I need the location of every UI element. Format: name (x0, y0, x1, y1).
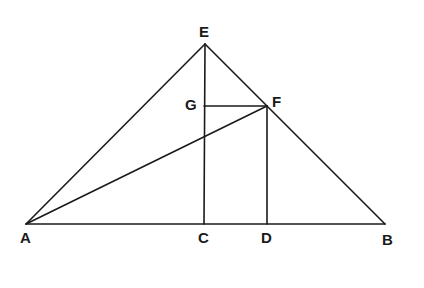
segment-ae (26, 44, 205, 224)
segment-ec (204, 44, 205, 224)
geometry-diagram: E G F A C D B (0, 0, 424, 288)
point-label-d: D (261, 229, 272, 246)
point-label-e: E (199, 23, 209, 40)
point-label-g: G (185, 96, 197, 113)
point-label-c: C (198, 229, 209, 246)
point-label-f: F (272, 93, 281, 110)
point-label-a: A (20, 229, 31, 246)
segment-eb (205, 44, 385, 224)
segment-af (26, 106, 267, 224)
point-label-b: B (382, 231, 393, 248)
